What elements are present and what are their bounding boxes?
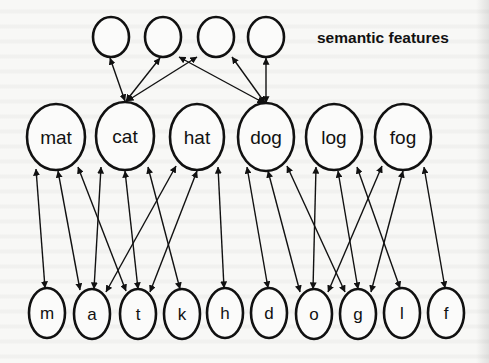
semantic-node-circle bbox=[93, 17, 129, 57]
word-node-label: cat bbox=[112, 126, 138, 147]
word-units-layer: matcathatdoglogfog bbox=[27, 102, 431, 171]
edge-mat-m bbox=[36, 169, 45, 288]
letter-units-layer: matkhdoglf bbox=[29, 288, 464, 339]
letter-node-label: l bbox=[400, 304, 404, 323]
letter-node-label: g bbox=[353, 305, 362, 324]
word-node-label: hat bbox=[184, 127, 211, 148]
word-node-fog: fog bbox=[375, 104, 431, 170]
edge-dog-s2 bbox=[179, 57, 264, 103]
semantic-node-s3 bbox=[198, 17, 234, 57]
semantic-node-circle bbox=[198, 17, 234, 57]
edge-hat-h bbox=[218, 167, 224, 288]
edge-dog-s3 bbox=[232, 57, 265, 103]
letter-node-label: a bbox=[87, 305, 97, 324]
letter-node-label: m bbox=[40, 304, 54, 323]
word-node-label: log bbox=[321, 127, 346, 148]
edge-cat-t bbox=[125, 171, 138, 289]
letter-node-l: l bbox=[384, 288, 420, 338]
word-node-label: dog bbox=[250, 127, 282, 148]
semantic-node-s4 bbox=[248, 17, 284, 57]
letter-node-d: d bbox=[251, 288, 287, 338]
letter-node-label: d bbox=[264, 304, 273, 323]
edge-fog-g bbox=[371, 171, 403, 292]
letter-node-label: h bbox=[220, 304, 229, 323]
letter-node-a: a bbox=[74, 289, 110, 339]
word-node-hat: hat bbox=[170, 104, 224, 170]
semantic-node-s1 bbox=[93, 17, 129, 57]
edge-log-l bbox=[357, 167, 400, 288]
letter-node-label: f bbox=[444, 304, 449, 323]
letter-node-label: t bbox=[136, 305, 141, 324]
edge-cat-s1 bbox=[110, 58, 125, 101]
word-node-label: fog bbox=[390, 127, 416, 148]
edges-layer bbox=[36, 57, 445, 292]
word-node-dog: dog bbox=[238, 103, 294, 171]
edge-cat-s3 bbox=[127, 57, 197, 101]
letter-node-g: g bbox=[340, 289, 376, 339]
letter-node-o: o bbox=[296, 289, 332, 339]
word-node-label: mat bbox=[40, 127, 72, 148]
letter-node-h: h bbox=[207, 288, 243, 338]
word-node-log: log bbox=[306, 104, 362, 170]
letter-node-label: k bbox=[178, 305, 187, 324]
network-diagram: matcathatdoglogfog matkhdoglf bbox=[0, 0, 489, 363]
semantic-features-layer bbox=[93, 17, 284, 57]
edge-hat-a bbox=[106, 166, 176, 292]
letter-node-m: m bbox=[29, 288, 65, 338]
semantic-node-circle bbox=[145, 17, 181, 57]
letter-node-f: f bbox=[428, 288, 464, 338]
edge-cat-a bbox=[94, 167, 101, 289]
semantic-features-label: semantic features bbox=[317, 29, 449, 47]
word-node-mat: mat bbox=[27, 104, 85, 170]
semantic-node-circle bbox=[248, 17, 284, 57]
letter-node-t: t bbox=[120, 289, 156, 339]
edge-hat-t bbox=[150, 171, 197, 292]
edge-fog-f bbox=[424, 167, 445, 288]
letter-node-k: k bbox=[164, 289, 200, 339]
word-node-cat: cat bbox=[96, 102, 154, 170]
edge-mat-a bbox=[58, 171, 80, 290]
edge-dog-o bbox=[268, 171, 300, 292]
semantic-node-s2 bbox=[145, 17, 181, 57]
edge-mat-t bbox=[78, 167, 126, 291]
edge-dog-d bbox=[247, 167, 268, 288]
edge-cat-s2 bbox=[126, 58, 160, 101]
letter-node-label: o bbox=[309, 305, 318, 324]
